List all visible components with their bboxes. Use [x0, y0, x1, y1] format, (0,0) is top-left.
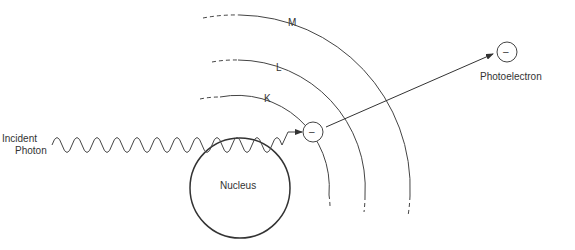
incident-photon-label-2: Photon	[15, 145, 47, 157]
photoelectron-label: Photoelectron	[480, 71, 542, 83]
shell-k-label: K	[264, 93, 271, 105]
shell-l-label: L	[276, 62, 282, 74]
electron-sign: –	[309, 126, 315, 138]
photoelectron-sign: –	[503, 46, 509, 58]
shell-m-label: M	[288, 17, 296, 29]
nucleus-label: Nucleus	[220, 180, 256, 192]
photoelectron-path	[326, 54, 493, 127]
incident-photon-label-1: Incident	[2, 133, 37, 145]
incident-photon-wave	[52, 132, 302, 153]
photoelectric-diagram	[0, 0, 575, 250]
